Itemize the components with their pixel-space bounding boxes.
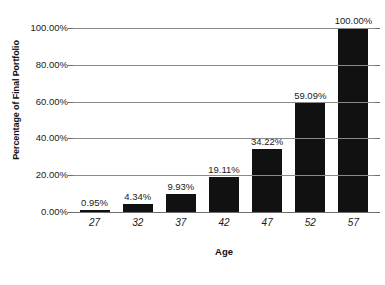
bar-value-label: 4.34%: [124, 191, 151, 202]
bar-value-label: 9.93%: [167, 181, 194, 192]
y-axis-tick-mark: [375, 65, 380, 66]
bar[interactable]: [166, 194, 196, 212]
x-axis-tick-label: 57: [348, 216, 359, 230]
bar-slot: 34.22%: [246, 28, 289, 212]
y-axis-tick-label: 0.00%: [18, 207, 68, 217]
x-axis-tick-label: 52: [305, 216, 316, 230]
y-axis-tick-mark: [68, 212, 73, 213]
y-axis-tick-mark: [375, 138, 380, 139]
y-axis-tick-mark: [68, 175, 73, 176]
y-axis-tick-mark: [375, 102, 380, 103]
y-axis-tick-mark: [375, 212, 380, 213]
y-axis-tick-mark: [375, 28, 380, 29]
gridline: [73, 65, 375, 66]
x-axis-tick-label: 47: [262, 216, 273, 230]
y-axis-tick-label: 60.00%: [18, 97, 68, 107]
bar-value-label: 19.11%: [208, 164, 240, 175]
bar-value-label: 59.09%: [294, 90, 326, 101]
x-axis-tick-label: 32: [132, 216, 143, 230]
gridline: [73, 138, 375, 139]
gridline: [73, 175, 375, 176]
gridline: [73, 102, 375, 103]
plot-area: 0.95%4.34%9.93%19.11%34.22%59.09%100.00%: [73, 28, 375, 212]
y-axis-tick-label: 100.00%: [18, 23, 68, 33]
bar-slot: 0.95%: [73, 28, 116, 212]
bar[interactable]: [209, 177, 239, 212]
x-axis-tick-label: 42: [218, 216, 229, 230]
y-axis-tick-label: 80.00%: [18, 60, 68, 70]
y-axis-tick-label: 20.00%: [18, 170, 68, 180]
bar-chart: Percentage of Final Portfolio 0.00%20.00…: [0, 0, 385, 285]
y-axis-tick-label: 40.00%: [18, 133, 68, 143]
bar[interactable]: [295, 103, 325, 212]
bar-slot: 19.11%: [202, 28, 245, 212]
bar-value-label: 0.95%: [81, 197, 108, 208]
bar[interactable]: [338, 28, 368, 212]
bar-slot: 59.09%: [289, 28, 332, 212]
y-axis-tick-mark: [68, 28, 73, 29]
x-axis-tick-label: 27: [89, 216, 100, 230]
bar[interactable]: [252, 149, 282, 212]
y-axis-tick-mark: [68, 102, 73, 103]
bar-slot: 100.00%: [332, 28, 375, 212]
bar-slot: 4.34%: [116, 28, 159, 212]
y-axis-tick-labels: 0.00%20.00%40.00%60.00%80.00%100.00%: [18, 0, 68, 285]
x-axis-title: Age: [73, 246, 375, 257]
y-axis-tick-mark: [68, 65, 73, 66]
gridline: [73, 28, 375, 29]
bar-value-label: 100.00%: [335, 15, 373, 26]
bar[interactable]: [123, 204, 153, 212]
x-axis-tick-labels: 27323742475257: [73, 216, 375, 232]
bar-series: 0.95%4.34%9.93%19.11%34.22%59.09%100.00%: [73, 28, 375, 212]
axis-baseline: [73, 212, 375, 213]
y-axis-tick-mark: [375, 175, 380, 176]
y-axis-tick-mark: [68, 138, 73, 139]
bar-slot: 9.93%: [159, 28, 202, 212]
x-axis-tick-label: 37: [175, 216, 186, 230]
